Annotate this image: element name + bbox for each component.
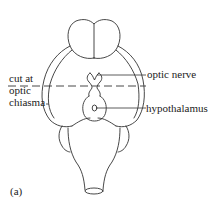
brainstem: [59, 126, 129, 194]
label-cut-at: cut at: [9, 72, 33, 84]
hypothalamus-structure: [83, 96, 107, 121]
label-optic-nerve: optic nerve: [147, 68, 196, 80]
label-optic: optic: [9, 84, 31, 96]
spinal-cord-end: [85, 188, 103, 194]
label-hypothalamus: hypothalamus: [146, 102, 208, 114]
optic-chiasma: [87, 73, 102, 96]
frontal-lobes: [68, 20, 120, 59]
panel-label: (a): [10, 185, 23, 198]
mammillary-body: [92, 105, 97, 111]
label-chiasma: chiasma: [9, 96, 45, 108]
brain-diagram: cut at optic chiasma optic nerve hypotha…: [0, 0, 215, 209]
